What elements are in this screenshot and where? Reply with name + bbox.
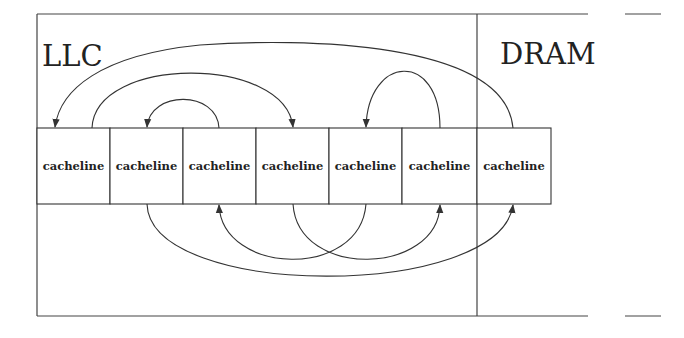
cacheline-label-2: cacheline (189, 159, 251, 173)
cacheline-label-5: cacheline (409, 159, 471, 173)
arrow-5-to-4 (366, 71, 440, 128)
cacheline-label-3: cacheline (262, 159, 324, 173)
arrow-2-to-1 (147, 99, 219, 128)
arrow-1-to-6 (147, 204, 513, 276)
region-label-dram: DRAM (500, 37, 596, 71)
cacheline-label-0: cacheline (43, 159, 105, 173)
arrows-above (55, 42, 513, 128)
arrow-4-to-2 (219, 204, 366, 259)
arrow-6-to-0 (55, 42, 513, 128)
arrows-below (147, 204, 513, 276)
region-label-llc: LLC (42, 39, 103, 73)
cacheline-label-6: cacheline (483, 159, 545, 173)
cacheline-label-4: cacheline (335, 159, 397, 173)
diagram-svg: LLC DRAM cacheline cacheline cacheline c… (0, 0, 684, 338)
cacheline-label-1: cacheline (116, 159, 178, 173)
arrow-3-to-5 (293, 204, 440, 259)
llc-dram-cacheline-diagram: LLC DRAM cacheline cacheline cacheline c… (0, 0, 684, 338)
